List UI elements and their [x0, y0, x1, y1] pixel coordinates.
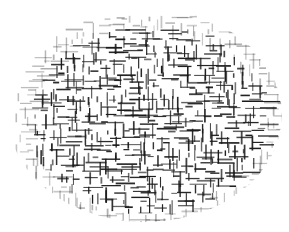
abstract-oval-artwork — [0, 0, 289, 232]
